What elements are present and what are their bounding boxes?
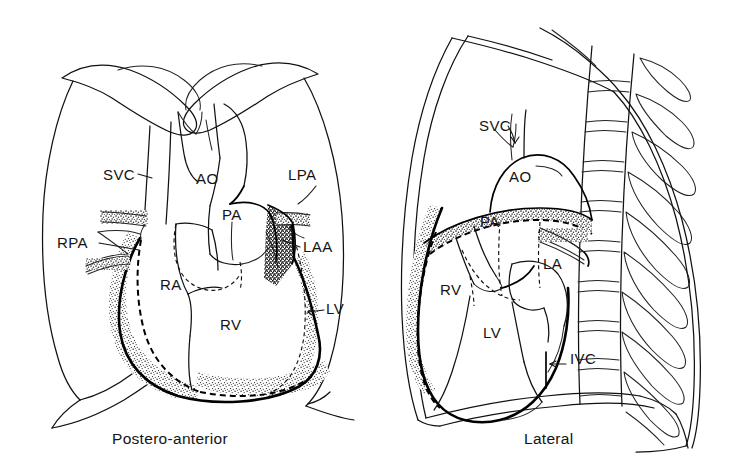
label-pa-svc: SVC	[103, 166, 135, 183]
lateral-panel: SVC AO PA LA RV LV IVC Lateral	[398, 28, 700, 452]
lat-pulmonary-artery	[456, 226, 534, 291]
label-pa-rpa: RPA	[57, 234, 88, 251]
pa-clavicles	[62, 63, 318, 135]
figure-canvas: SVC AO LPA RPA PA LAA RA LV RV Postero-a…	[0, 0, 732, 473]
label-lat-ao: AO	[509, 168, 531, 185]
label-lat-lv: LV	[483, 324, 501, 341]
label-lat-rv: RV	[440, 281, 461, 298]
label-pa-ra: RA	[160, 276, 182, 293]
label-lat-pa: PA	[480, 213, 500, 230]
pa-labels: SVC AO LPA RPA PA LAA RA LV RV	[57, 166, 344, 333]
lat-chamber-divisions	[434, 296, 542, 420]
pa-chamber-divisions	[176, 223, 223, 390]
cardiac-silhouette-figure: SVC AO LPA RPA PA LAA RA LV RV Postero-a…	[0, 0, 732, 473]
label-pa-lv: LV	[326, 300, 344, 317]
pa-panel: SVC AO LPA RPA PA LAA RA LV RV Postero-a…	[43, 63, 354, 447]
label-pa-lpa: LPA	[288, 166, 316, 183]
lat-apex-outline	[452, 28, 620, 92]
lat-left-atrium	[509, 261, 567, 372]
label-pa-ao: AO	[196, 170, 218, 187]
label-lat-svc: SVC	[479, 117, 511, 134]
caption-postero-anterior: Postero-anterior	[112, 430, 228, 447]
label-pa-rv: RV	[220, 316, 241, 333]
pa-aorta	[178, 104, 247, 206]
label-pa-pa: PA	[222, 206, 242, 223]
lat-internal-dashed	[418, 222, 540, 408]
label-lat-ivc: IVC	[570, 350, 596, 367]
label-pa-laa: LAA	[303, 238, 333, 255]
label-lat-la: LA	[543, 255, 562, 272]
lat-ribs	[614, 58, 700, 452]
pa-rv-stipple-band	[185, 352, 345, 412]
caption-lateral: Lateral	[524, 430, 574, 447]
